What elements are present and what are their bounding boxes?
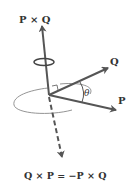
cross-product-diagram xyxy=(0,0,132,187)
pxq-label: P × Q xyxy=(19,14,51,25)
qxp-vector-arrow xyxy=(49,97,62,157)
q-label: Q xyxy=(110,56,119,67)
right-angle-marker xyxy=(52,85,58,90)
p-vector-arrow xyxy=(49,95,116,110)
pxq-vector-arrow xyxy=(42,26,49,95)
equation-label: Q × P = −P × Q xyxy=(24,170,107,181)
rotation-arrow-icon xyxy=(34,59,54,66)
q-vector-arrow xyxy=(49,68,108,95)
p-label: P xyxy=(118,95,126,106)
theta-label: θ xyxy=(84,88,89,98)
